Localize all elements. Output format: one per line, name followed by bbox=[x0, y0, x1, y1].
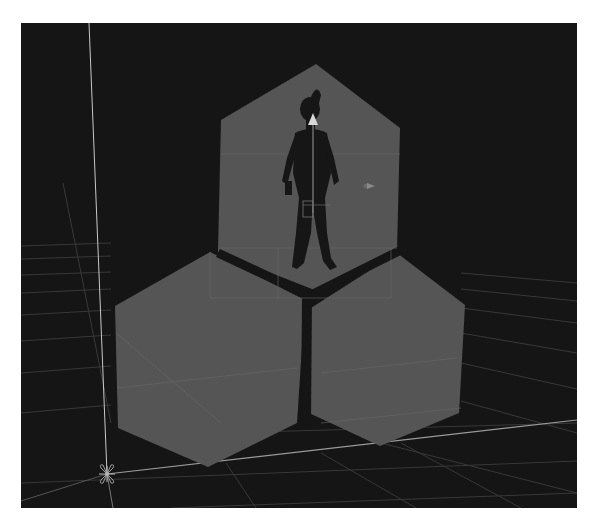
scene-viewport[interactable] bbox=[21, 23, 577, 508]
scene-canvas[interactable] bbox=[21, 23, 577, 508]
origin-gizmo-icon[interactable] bbox=[99, 465, 115, 483]
